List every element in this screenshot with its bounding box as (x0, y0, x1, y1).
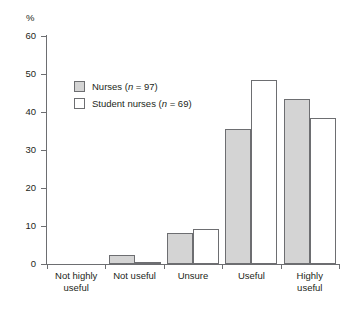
x-category-label-line: Unsure (164, 270, 222, 282)
x-category-label-line: Useful (222, 270, 280, 282)
legend-item-nurses: Nurses (n = 97) (74, 78, 192, 95)
bar-nurses-unsure (167, 233, 193, 264)
x-tick-mark (339, 264, 340, 269)
x-tick-mark (222, 264, 223, 269)
x-category-label: Useful (222, 270, 280, 282)
x-category-label-line: Highly (281, 270, 339, 282)
x-category-label: Not highlyuseful (47, 270, 105, 293)
legend-item-student-nurses: Student nurses (n = 69) (74, 95, 192, 112)
x-category-label-line: useful (281, 282, 339, 294)
bar-chart: % 6050403020100 Not highlyusefulNot usef… (0, 0, 351, 315)
y-tick-mark (41, 264, 46, 265)
y-tick-mark (41, 112, 46, 113)
x-category-label: Unsure (164, 270, 222, 282)
y-tick-label: 50 (0, 69, 36, 79)
x-category-label-line: Not useful (105, 270, 163, 282)
bar-nurses-useful (225, 129, 251, 264)
legend-swatch-student-nurses (74, 98, 85, 109)
bar-student-nurses-not-useful (135, 262, 161, 264)
y-axis-unit-label: % (26, 13, 34, 23)
y-tick-label: 0 (0, 259, 36, 269)
legend-label-nurses: Nurses (n = 97) (92, 82, 158, 92)
x-tick-mark (281, 264, 282, 269)
bar-student-nurses-unsure (193, 229, 219, 264)
bar-nurses-not-useful (109, 255, 135, 265)
legend-label-student-nurses: Student nurses (n = 69) (92, 99, 192, 109)
bar-student-nurses-useful (251, 80, 277, 264)
x-tick-mark (47, 264, 48, 269)
x-category-label: Not useful (105, 270, 163, 282)
y-tick-label: 20 (0, 183, 36, 193)
x-category-label-line: useful (47, 282, 105, 294)
bar-nurses-highly-useful (284, 99, 310, 264)
bar-student-nurses-highly-useful (310, 118, 336, 264)
chart-legend: Nurses (n = 97) Student nurses (n = 69) (74, 78, 192, 112)
y-tick-label: 60 (0, 31, 36, 41)
plot-area (47, 36, 339, 264)
x-tick-mark (105, 264, 106, 269)
y-tick-mark (41, 36, 46, 37)
y-tick-label: 30 (0, 145, 36, 155)
x-category-label-line: Not highly (47, 270, 105, 282)
legend-swatch-nurses (74, 81, 85, 92)
y-tick-mark (41, 226, 46, 227)
y-tick-label: 10 (0, 221, 36, 231)
y-tick-label: 40 (0, 107, 36, 117)
x-tick-mark (164, 264, 165, 269)
y-tick-mark (41, 188, 46, 189)
x-category-label: Highlyuseful (281, 270, 339, 293)
y-tick-mark (41, 74, 46, 75)
x-axis-line (46, 264, 339, 265)
y-tick-mark (41, 150, 46, 151)
